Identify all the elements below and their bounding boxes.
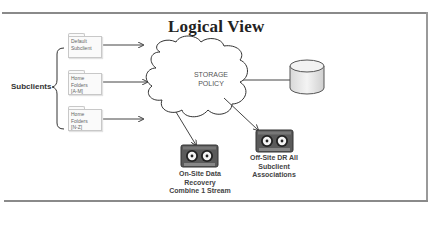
folder-default-subclient: Default Subclient [68, 33, 102, 58]
onsite-tape-icon [181, 145, 218, 167]
folder-label: Home Folders [A-M] [71, 75, 88, 95]
storage-policy-label: STORAGE POLICY [183, 70, 239, 88]
folder-label: Default Subclient [71, 38, 92, 51]
offsite-tape-icon [256, 130, 293, 152]
offsite-caption: Off-Site DR All Subclient Associations [234, 154, 314, 180]
subclients-label: Subclients [11, 82, 51, 91]
policy-to-offsite-arrow [224, 98, 258, 130]
folder-home-folders-a-m: Home Folders [A-M] [68, 70, 102, 95]
subclients-brace [52, 48, 64, 129]
folder-arrows [98, 45, 147, 119]
folder-home-folders-n-z: Home Folders [N-Z] [68, 106, 102, 131]
database-cylinder-icon [290, 60, 324, 94]
onsite-caption: On-Site Data Recovery Combine 1 Stream [160, 170, 240, 196]
folder-label: Home Folders [N-Z] [71, 111, 88, 131]
